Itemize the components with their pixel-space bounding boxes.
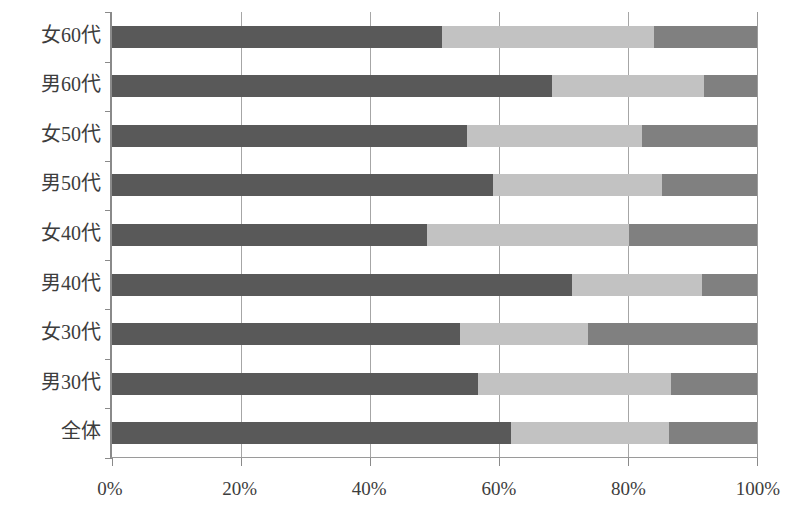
y-tick-mark — [105, 359, 112, 360]
bar-segment-series-2 — [442, 26, 654, 48]
bar-segment-series-3 — [671, 373, 757, 395]
y-tick-mark — [105, 161, 112, 162]
bar-segment-series-1 — [112, 323, 460, 345]
bar-row — [112, 274, 757, 296]
category-label: 男40代 — [0, 272, 101, 294]
bar-row — [112, 26, 757, 48]
bar-segment-series-3 — [669, 422, 757, 444]
bar-segment-series-3 — [654, 26, 757, 48]
bar-row — [112, 373, 757, 395]
y-tick-mark — [105, 12, 112, 13]
bar-segment-series-3 — [629, 224, 757, 246]
bar-segment-series-1 — [112, 26, 442, 48]
category-label: 女60代 — [0, 24, 101, 46]
category-label: 女30代 — [0, 321, 101, 343]
plot-area — [110, 12, 758, 458]
gridline-100% — [757, 12, 758, 457]
bar-row — [112, 174, 757, 196]
y-tick-mark — [105, 111, 112, 112]
y-tick-mark — [105, 62, 112, 63]
y-tick-mark — [105, 458, 112, 459]
bar-segment-series-3 — [702, 274, 757, 296]
x-tick-mark — [499, 458, 500, 466]
y-tick-mark — [105, 309, 112, 310]
bar-segment-series-1 — [112, 274, 572, 296]
bar-segment-series-2 — [427, 224, 630, 246]
x-tick-mark — [370, 458, 371, 466]
bar-segment-series-2 — [460, 323, 588, 345]
category-label: 女40代 — [0, 222, 101, 244]
bar-segment-series-2 — [511, 422, 669, 444]
x-tick-mark — [241, 458, 242, 466]
bar-segment-series-1 — [112, 75, 552, 97]
bar-segment-series-1 — [112, 422, 511, 444]
bar-row — [112, 75, 757, 97]
x-axis-label: 40% — [352, 478, 387, 500]
x-axis-label: 60% — [481, 478, 516, 500]
bar-segment-series-1 — [112, 224, 427, 246]
bar-row — [112, 224, 757, 246]
bar-segment-series-1 — [112, 174, 493, 196]
x-axis-label: 20% — [222, 478, 257, 500]
bar-segment-series-2 — [493, 174, 662, 196]
x-axis-label: 0% — [97, 478, 122, 500]
category-label: 男60代 — [0, 73, 101, 95]
y-tick-mark — [105, 408, 112, 409]
y-tick-mark — [105, 260, 112, 261]
stacked-bar-chart: 女60代男60代女50代男50代女40代男40代女30代男30代全体 0%20%… — [0, 0, 792, 521]
bar-segment-series-2 — [478, 373, 671, 395]
bar-segment-series-3 — [662, 174, 757, 196]
bar-segment-series-3 — [704, 75, 757, 97]
category-label: 男50代 — [0, 172, 101, 194]
x-axis-label: 100% — [736, 478, 780, 500]
bar-segment-series-3 — [642, 125, 757, 147]
bar-row — [112, 323, 757, 345]
x-tick-mark — [628, 458, 629, 466]
category-label: 全体 — [0, 420, 101, 442]
category-label: 女50代 — [0, 123, 101, 145]
category-label: 男30代 — [0, 371, 101, 393]
x-tick-mark — [112, 458, 113, 466]
bar-segment-series-2 — [552, 75, 704, 97]
y-tick-mark — [105, 210, 112, 211]
bar-segment-series-1 — [112, 373, 478, 395]
bar-segment-series-2 — [467, 125, 641, 147]
bar-row — [112, 125, 757, 147]
bar-row — [112, 422, 757, 444]
x-tick-mark — [757, 458, 758, 466]
bar-segment-series-2 — [572, 274, 702, 296]
bar-segment-series-3 — [588, 323, 757, 345]
bar-segment-series-1 — [112, 125, 467, 147]
x-axis-label: 80% — [611, 478, 646, 500]
